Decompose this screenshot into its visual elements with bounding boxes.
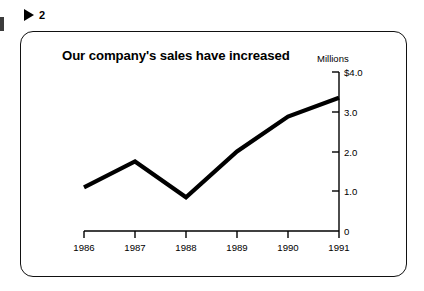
figure-marker: 2 bbox=[24, 8, 45, 22]
y-tick-label-1: 1.0 bbox=[344, 186, 357, 197]
line-chart-plot: $4.0 3.0 2.0 1.0 0 1986 1987 1988 1989 1… bbox=[21, 32, 408, 278]
page-edge-artifact bbox=[0, 17, 4, 31]
y-tick-label-0: 0 bbox=[344, 226, 349, 237]
y-tick-label-3: 3.0 bbox=[344, 107, 357, 118]
x-tick-label-1990: 1990 bbox=[277, 242, 298, 253]
sales-data-line bbox=[84, 98, 339, 197]
figure-number: 2 bbox=[39, 9, 45, 21]
x-tick-label-1991: 1991 bbox=[328, 242, 349, 253]
x-tick-label-1986: 1986 bbox=[73, 242, 94, 253]
x-axis-ticks bbox=[84, 231, 339, 238]
play-triangle-icon bbox=[24, 9, 34, 21]
chart-panel: Our company's sales have increased Milli… bbox=[20, 31, 407, 277]
y-axis-ticks bbox=[332, 72, 339, 191]
y-tick-label-2: 2.0 bbox=[344, 147, 357, 158]
x-tick-label-1988: 1988 bbox=[175, 242, 196, 253]
y-tick-label-4: $4.0 bbox=[344, 67, 363, 78]
x-tick-label-1989: 1989 bbox=[226, 242, 247, 253]
x-tick-label-1987: 1987 bbox=[124, 242, 145, 253]
